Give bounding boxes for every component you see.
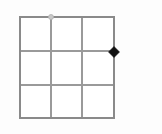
grid-cell-r2c0[interactable] [20,85,51,118]
grid-cell-r1c2[interactable] [82,51,114,85]
grid-cell-r1c1[interactable] [51,51,82,85]
grid-svg [0,0,162,134]
top-circle-marker[interactable] [49,15,54,20]
grid-cell-r2c1[interactable] [51,85,82,118]
grid-cell-r2c2[interactable] [82,85,114,118]
grid-cell-r1c0[interactable] [20,51,51,85]
grid-canvas [0,0,162,134]
grid-cell-r0c0[interactable] [20,17,51,51]
grid-cell-r0c1[interactable] [51,17,82,51]
grid-cell-r0c2[interactable] [82,17,114,51]
